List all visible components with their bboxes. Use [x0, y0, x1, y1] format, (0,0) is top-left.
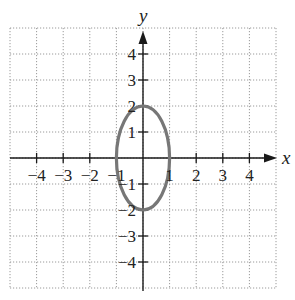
y-tick-label: 3	[128, 71, 137, 90]
y-axis-label: y	[137, 5, 148, 26]
x-tick-label: −2	[81, 166, 99, 185]
y-tick-label: −3	[118, 227, 136, 246]
x-axis-label: x	[281, 147, 291, 168]
y-tick-label: −4	[118, 253, 137, 272]
y-tick-label: 4	[128, 45, 137, 64]
x-axis-arrow-icon	[264, 154, 277, 163]
x-tick-label: 4	[245, 166, 254, 185]
y-tick-label: −1	[118, 175, 136, 194]
x-tick-label: −4	[28, 166, 47, 185]
y-tick-label: 1	[128, 123, 137, 142]
x-tick-label: 3	[219, 166, 228, 185]
x-tick-label: 1	[165, 166, 174, 185]
x-tick-label: 2	[192, 166, 201, 185]
y-axis-arrow-icon	[139, 31, 148, 44]
y-tick-label: 2	[128, 97, 137, 116]
y-tick-label: −2	[118, 201, 136, 220]
coordinate-plane: −4−3−2−11234−4−3−2−11234 x y	[0, 0, 295, 300]
x-tick-label: −3	[54, 166, 72, 185]
axes	[10, 31, 277, 291]
